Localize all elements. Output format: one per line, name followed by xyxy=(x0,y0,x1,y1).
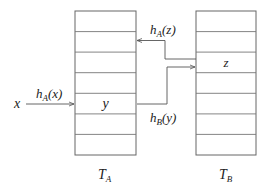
arrow-ta-to-tb xyxy=(137,67,195,104)
label-ha-z: hA(z) xyxy=(150,22,176,39)
label-hb-y: hB(y) xyxy=(150,110,176,127)
table-a-border xyxy=(75,11,136,155)
table-a-row-dividers xyxy=(75,32,136,135)
table-b: z xyxy=(196,11,256,155)
label-ha-x: hA(x) xyxy=(36,86,62,103)
input-x-label: x xyxy=(13,96,21,111)
arrow-tb-to-ta xyxy=(137,41,196,60)
table-b-row-dividers xyxy=(196,32,256,135)
table-a: y xyxy=(75,11,136,155)
table-a-entry-y: y xyxy=(100,96,109,111)
table-b-border xyxy=(196,11,256,155)
table-a-caption: TA xyxy=(98,167,112,184)
table-b-entry-z: z xyxy=(222,55,228,70)
cuckoo-hash-diagram: y z x hA(x) hA(z) hB(y) TA TB xyxy=(0,0,268,194)
table-b-caption: TB xyxy=(219,167,233,184)
